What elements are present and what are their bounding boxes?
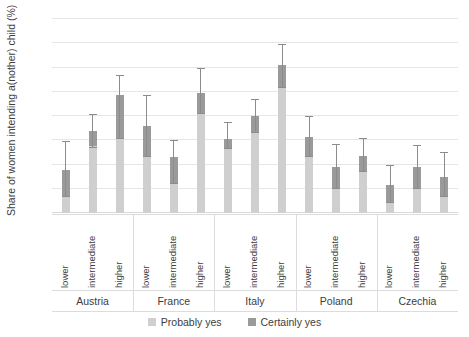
- error-bar-cap-bottom: [197, 113, 205, 114]
- error-bar-cap-top: [89, 114, 97, 115]
- error-bar: [146, 95, 147, 157]
- bar-segment-probably-yes: [224, 149, 232, 213]
- group-label-poland: Poland: [296, 290, 377, 312]
- category-group-separator: [214, 214, 215, 290]
- legend-item[interactable]: Probably yes: [148, 316, 222, 328]
- plot-area: [52, 19, 458, 213]
- category-tick-higher: higher: [356, 214, 367, 288]
- error-bar: [417, 145, 418, 189]
- bar-segment-probably-yes: [440, 196, 448, 213]
- category-tick-higher: higher: [113, 214, 124, 288]
- category-tick-lower: lower: [383, 214, 394, 288]
- error-bar-cap-top: [359, 138, 367, 139]
- legend-swatch-icon: [148, 318, 156, 326]
- bar-series: [52, 19, 458, 213]
- error-bar: [363, 138, 364, 172]
- error-bar-cap-bottom: [278, 87, 286, 88]
- category-group-separator: [377, 214, 378, 290]
- category-tick-intermediate: intermediate: [248, 214, 259, 288]
- error-bar: [444, 152, 445, 197]
- bar-segment-probably-yes: [62, 196, 70, 213]
- error-bar-cap-bottom: [224, 148, 232, 149]
- error-bar-cap-bottom: [251, 132, 259, 133]
- error-bar: [65, 141, 66, 197]
- group-separator: [214, 290, 215, 312]
- error-bar-cap-top: [224, 122, 232, 123]
- category-tick-lower: lower: [140, 214, 151, 288]
- error-bar: [173, 140, 174, 184]
- error-bar-cap-top: [170, 140, 178, 141]
- category-tick-lower: lower: [59, 214, 70, 288]
- category-tick-higher: higher: [437, 214, 448, 288]
- error-bar-cap-bottom: [116, 138, 124, 139]
- bar-segment-probably-yes: [278, 87, 286, 213]
- error-bar-cap-top: [440, 152, 448, 153]
- error-bar-cap-top: [386, 165, 394, 166]
- error-bar: [227, 122, 228, 149]
- error-bar-cap-bottom: [89, 147, 97, 148]
- category-group-separator: [133, 214, 134, 290]
- category-group-separator: [296, 214, 297, 290]
- group-label-czechia: Czechia: [377, 290, 458, 312]
- category-tick-lower: lower: [302, 214, 313, 288]
- category-tick-intermediate: intermediate: [86, 214, 97, 288]
- bar-segment-probably-yes: [386, 202, 394, 213]
- category-tick-intermediate: intermediate: [410, 214, 421, 288]
- legend-label: Probably yes: [161, 316, 222, 328]
- error-bar-cap-bottom: [170, 183, 178, 184]
- error-bar-cap-top: [116, 75, 124, 76]
- bar-segment-probably-yes: [413, 188, 421, 213]
- error-bar-cap-top: [305, 116, 313, 117]
- group-label-austria: Austria: [52, 290, 133, 312]
- bar-segment-probably-yes: [170, 184, 178, 213]
- error-bar-cap-bottom: [332, 188, 340, 189]
- error-bar: [119, 75, 120, 139]
- error-bar-cap-top: [278, 44, 286, 45]
- error-bar-cap-bottom: [359, 171, 367, 172]
- chart-figure: Share of women intending a(nother) child…: [0, 0, 469, 337]
- error-bar: [282, 44, 283, 88]
- error-bar-cap-top: [62, 141, 70, 142]
- error-bar-cap-bottom: [305, 156, 313, 157]
- error-bar: [309, 116, 310, 157]
- chart-legend: Probably yesCertainly yes: [0, 316, 469, 328]
- error-bar-cap-top: [413, 145, 421, 146]
- error-bar: [200, 68, 201, 114]
- bar-segment-probably-yes: [359, 172, 367, 213]
- category-tick-intermediate: intermediate: [329, 214, 340, 288]
- category-tick-higher: higher: [275, 214, 286, 288]
- error-bar: [390, 165, 391, 204]
- legend-item[interactable]: Certainly yes: [248, 316, 322, 328]
- group-axis: AustriaFranceItalyPolandCzechia: [52, 290, 458, 312]
- error-bar-cap-bottom: [440, 196, 448, 197]
- error-bar-cap-top: [197, 68, 205, 69]
- category-tick-higher: higher: [194, 214, 205, 288]
- error-bar: [255, 99, 256, 133]
- legend-swatch-icon: [248, 318, 256, 326]
- bar-italy-lower[interactable]: [224, 139, 232, 213]
- bar-segment-probably-yes: [143, 156, 151, 213]
- legend-label: Certainly yes: [261, 316, 322, 328]
- error-bar-cap-bottom: [413, 188, 421, 189]
- error-bar: [92, 114, 93, 148]
- bar-segment-probably-yes: [197, 114, 205, 213]
- error-bar-cap-bottom: [143, 156, 151, 157]
- bar-segment-probably-yes: [89, 146, 97, 213]
- bar-segment-probably-yes: [116, 139, 124, 213]
- category-tick-lower: lower: [221, 214, 232, 288]
- error-bar-cap-top: [143, 95, 151, 96]
- bar-segment-probably-yes: [251, 133, 259, 213]
- group-separator: [296, 290, 297, 312]
- group-label-italy: Italy: [214, 290, 295, 312]
- error-bar: [336, 144, 337, 189]
- category-tick-intermediate: intermediate: [167, 214, 178, 288]
- error-bar-cap-bottom: [386, 202, 394, 203]
- bar-segment-probably-yes: [332, 188, 340, 213]
- bar-segment-probably-yes: [305, 157, 313, 213]
- group-label-france: France: [133, 290, 214, 312]
- error-bar-cap-bottom: [62, 196, 70, 197]
- group-separator: [377, 290, 378, 312]
- error-bar-cap-top: [332, 144, 340, 145]
- group-separator: [133, 290, 134, 312]
- category-axis: lowerintermediatehigherlowerintermediate…: [52, 214, 458, 290]
